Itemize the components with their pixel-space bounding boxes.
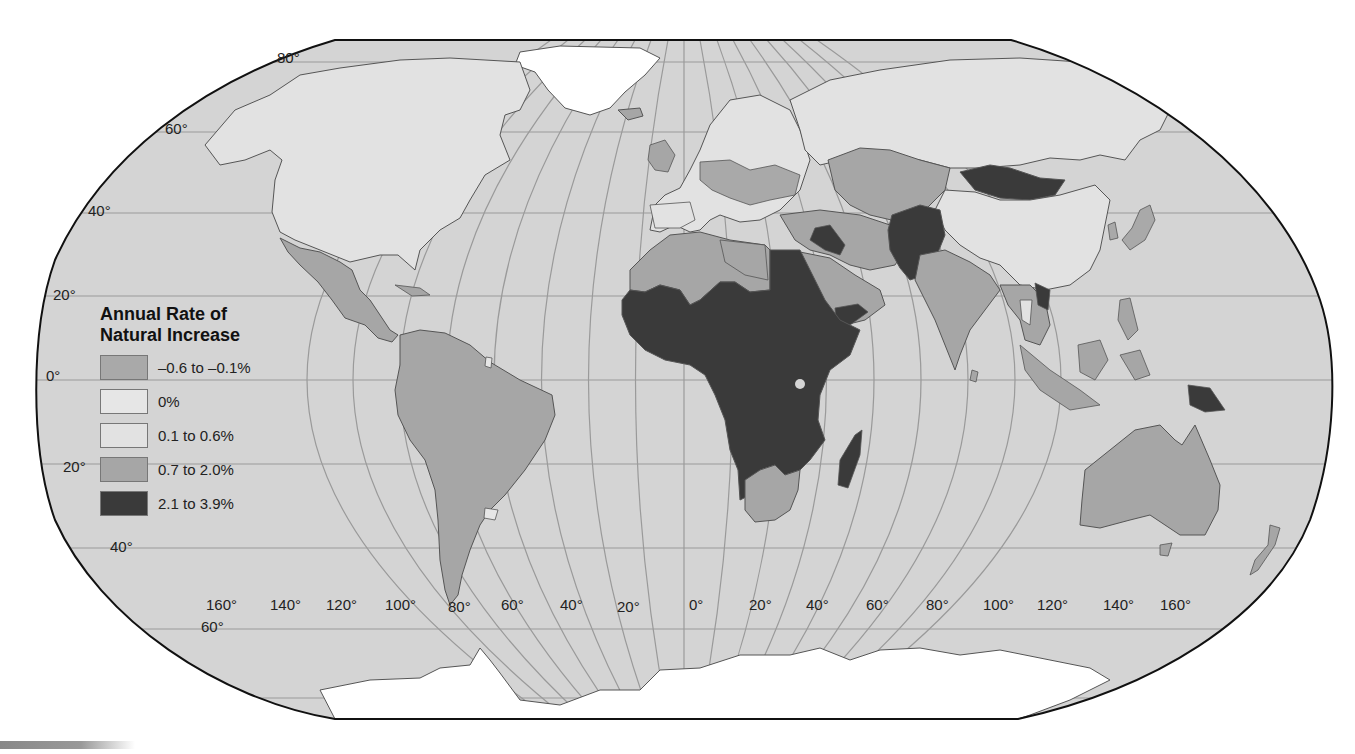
longitude-label: 100° — [385, 596, 416, 613]
legend-label: 0.1 to 0.6% — [158, 427, 234, 444]
legend-label: 0.7 to 2.0% — [158, 461, 234, 478]
legend-item: –0.6 to –0.1% — [100, 354, 251, 380]
latitude-label: 60° — [201, 618, 224, 635]
longitude-label: 120° — [326, 596, 357, 613]
legend-item: 0% — [100, 388, 251, 414]
latitude-label: 80° — [277, 49, 300, 66]
longitude-label: 80° — [448, 598, 471, 615]
longitude-label: 160° — [1160, 596, 1191, 613]
longitude-label: 140° — [270, 596, 301, 613]
longitude-label: 160° — [206, 596, 237, 613]
legend-item: 0.1 to 0.6% — [100, 422, 251, 448]
longitude-label: 60° — [501, 596, 524, 613]
latitude-label: 40° — [110, 538, 133, 555]
legend-label: 2.1 to 3.9% — [158, 495, 234, 512]
latitude-label: 0° — [46, 367, 60, 384]
longitude-label: 60° — [866, 596, 889, 613]
longitude-label: 20° — [617, 598, 640, 615]
latitude-label: 20° — [53, 286, 76, 303]
legend-swatch-declining — [100, 355, 148, 380]
longitude-label: 0° — [689, 596, 703, 613]
scan-artifact-bar — [0, 741, 135, 749]
legend-swatch-low — [100, 423, 148, 448]
legend-label: –0.6 to –0.1% — [158, 359, 251, 376]
legend-label: 0% — [158, 393, 180, 410]
longitude-label: 40° — [806, 596, 829, 613]
longitude-label: 120° — [1037, 596, 1068, 613]
longitude-label: 140° — [1103, 596, 1134, 613]
legend-swatch-zero — [100, 389, 148, 414]
legend-item: 0.7 to 2.0% — [100, 456, 251, 482]
french-guiana — [485, 357, 492, 368]
legend-swatch-high — [100, 491, 148, 516]
uruguay — [484, 508, 498, 520]
latitude-label: 20° — [63, 458, 86, 475]
longitude-label: 40° — [560, 596, 583, 613]
longitude-label: 20° — [749, 596, 772, 613]
legend-item: 2.1 to 3.9% — [100, 490, 251, 516]
lake-victoria — [795, 379, 805, 389]
legend-title-line2: Natural Increase — [100, 325, 251, 346]
legend-swatch-medium — [100, 457, 148, 482]
legend: Annual Rate of Natural Increase –0.6 to … — [100, 304, 251, 516]
longitude-label: 80° — [926, 596, 949, 613]
latitude-label: 40° — [88, 202, 111, 219]
longitude-label: 100° — [983, 596, 1014, 613]
legend-title-line1: Annual Rate of — [100, 304, 251, 325]
latitude-label: 60° — [165, 120, 188, 137]
